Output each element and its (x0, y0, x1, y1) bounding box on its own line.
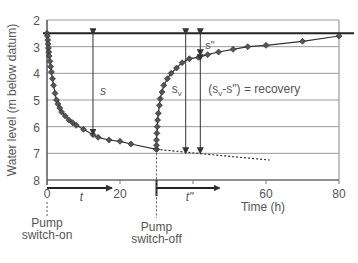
drawdown-recovery-chart: 23456780206080Time (h)Water level (m bel… (0, 0, 358, 263)
y-tick-label: 6 (33, 121, 40, 135)
data-point-diamond (230, 46, 236, 52)
s-residual-label: s" (205, 39, 215, 51)
extrapolated-drawdown-line (157, 149, 270, 160)
data-point-diamond (81, 126, 87, 132)
y-tick-label: 2 (33, 14, 40, 28)
data-point-diamond (49, 76, 55, 82)
data-point-diamond (47, 58, 53, 64)
t-label: t (80, 190, 84, 204)
data-point-diamond (245, 44, 251, 50)
x-tick-label: 20 (113, 187, 127, 201)
y-tick-label: 7 (33, 147, 40, 161)
data-point-diamond (117, 138, 123, 144)
y-tick-label: 5 (33, 94, 40, 108)
pump-off-label: switch-off (131, 232, 182, 246)
data-point-diamond (154, 130, 160, 136)
axes: 23456780206080Time (h)Water level (m bel… (5, 14, 354, 214)
data-point-diamond (48, 64, 54, 70)
data-point-diamond (52, 90, 58, 96)
data-point-diamond (106, 137, 112, 143)
data-point-diamond (128, 141, 134, 147)
y-tick-label: 8 (33, 174, 40, 188)
data-point-diamond (154, 137, 160, 143)
x-tick-label: 60 (259, 187, 273, 201)
data-point-diamond (263, 42, 269, 48)
gridlines (47, 20, 339, 180)
recovery-label: (sv-s") = recovery (208, 82, 300, 98)
data-point-diamond (157, 96, 163, 102)
data-point-diamond (154, 124, 160, 130)
data-point-diamond (216, 49, 222, 55)
data-point-diamond (161, 82, 167, 88)
data-point-diamond (51, 82, 57, 88)
data-point-diamond (159, 89, 165, 95)
data-point-diamond (155, 117, 161, 123)
annotations: ssvs"(sv-s") = recoverytt"Pumpswitch-onP… (22, 34, 301, 246)
sv-label: sv (172, 82, 182, 98)
y-tick-label: 3 (33, 41, 40, 55)
data-point-diamond (48, 69, 54, 75)
s-label: s (100, 84, 106, 98)
x-axis-label: Time (h) (241, 200, 285, 214)
data-point-diamond (186, 56, 192, 62)
x-tick-label: 0 (44, 187, 51, 201)
data-point-diamond (155, 110, 161, 116)
data-point-diamond (205, 52, 211, 58)
y-tick-label: 4 (33, 67, 40, 81)
data-point-diamond (300, 38, 306, 44)
x-tick-label: 80 (332, 187, 346, 201)
y-axis-label: Water level (m below datum) (5, 24, 19, 176)
pump-on-label: switch-on (22, 228, 73, 242)
data-point-diamond (95, 134, 101, 140)
t-double-prime-label: t" (186, 190, 194, 204)
data-point-diamond (156, 102, 162, 108)
